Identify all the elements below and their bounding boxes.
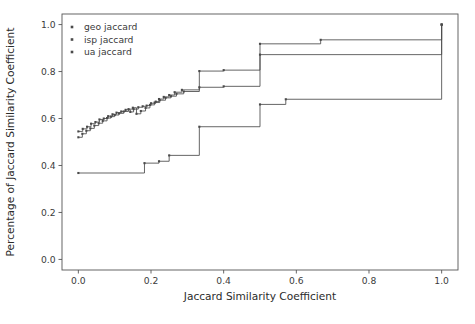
figure-canvas: 0.00.20.40.60.81.0 0.00.20.40.60.81.0 ge… [0,0,475,324]
y-tick-label: 0.2 [41,207,56,218]
series-marker [198,86,200,88]
series-marker [163,96,165,98]
series-marker [143,162,145,164]
series-marker [259,54,261,56]
y-tick-label: 1.0 [41,19,56,30]
series-marker [259,103,261,105]
series-marker [110,116,112,118]
series-marker [82,128,84,130]
legend-marker [71,51,74,54]
legend-label: ua jaccard [84,46,132,57]
series-marker [142,105,144,107]
series-marker [285,98,287,100]
series-marker [90,123,92,125]
series-marker [158,160,160,162]
x-axis-title: Jaccard Similarity Coefficient [183,290,336,302]
series-marker [93,125,95,127]
chart-svg: 0.00.20.40.60.81.0 0.00.20.40.60.81.0 ge… [0,0,475,324]
series-marker [81,133,83,135]
x-tick-label: 0.6 [289,275,304,286]
series-marker [137,106,139,108]
y-tick-label: 0.0 [41,254,56,265]
series-marker [168,94,170,96]
series-marker [174,91,176,93]
series-marker [198,70,200,72]
series-marker [146,105,148,107]
series-marker [198,126,200,128]
series-marker [102,120,104,122]
series-marker [223,85,225,87]
series-marker [132,107,134,109]
series-marker [181,89,183,91]
series-marker [114,114,116,116]
x-tick-label: 0.8 [362,275,377,286]
x-tick-label: 0.2 [144,275,159,286]
series-marker [89,127,91,129]
series-marker [125,109,127,111]
series-marker [115,112,117,114]
series-marker [103,117,105,119]
series-marker [170,95,172,97]
series-marker [223,69,225,71]
x-tick-label: 1.0 [434,275,449,286]
y-tick-label: 0.8 [41,66,56,77]
legend-label: isp jaccard [84,34,133,45]
series-marker [168,154,170,156]
series-marker [106,117,108,119]
series-marker [107,115,109,117]
series-marker [129,111,131,113]
series-marker [175,93,177,95]
series-marker [259,43,261,45]
series-marker [127,108,129,110]
x-tick-label: 0.4 [216,275,231,286]
legend-marker [71,26,74,29]
x-tick-label: 0.0 [71,275,86,286]
y-tick-label: 0.4 [41,160,56,171]
y-axis-title: Percentage of Jaccard Similarity Coeffic… [4,28,16,257]
series-marker [98,118,100,120]
series-marker [111,113,113,115]
series-marker [320,39,322,41]
series-marker [77,172,79,174]
series-marker [183,90,185,92]
series-marker [94,121,96,123]
series-marker [77,136,79,138]
series-marker [118,112,120,114]
series-marker [135,113,137,115]
series-marker [85,130,87,132]
series-marker [140,110,142,112]
series-marker [77,130,79,132]
series-marker [123,110,125,112]
series-marker [159,99,161,101]
legend-label: geo jaccard [84,21,137,32]
series-marker [164,97,166,99]
series-marker [145,107,147,109]
series-marker [441,24,443,26]
series-marker [154,101,156,103]
legend-marker [71,38,74,41]
series-marker [98,122,100,124]
y-tick-label: 0.6 [41,113,56,124]
series-marker [120,110,122,112]
series-marker [149,104,151,106]
series-marker [86,126,88,128]
